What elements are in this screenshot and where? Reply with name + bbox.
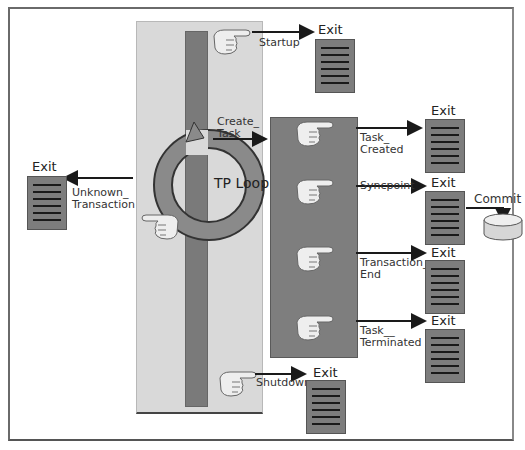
label-unknown-transaction: Unknown_ Transaction [72,187,135,211]
exit-title: Exit [318,22,343,37]
label-transaction-end: Transaction_ End [360,257,428,281]
hand-pointer-icon [297,122,333,146]
exit-title: Exit [431,245,456,260]
exit-document-icon [425,329,465,383]
exit-document-icon [315,39,355,93]
hand-pointer-icon [214,30,250,54]
label-task-terminated: Task__ Terminated [360,325,422,349]
exit-title: Exit [313,365,338,380]
hand-pointer-icon [297,180,333,204]
exit-document-icon [306,380,346,434]
exit-document-icon [425,191,465,245]
label-task-created: Task_ Created [360,132,404,156]
label-shutdown: Shutdown [256,377,311,389]
exit-title: Exit [32,159,57,174]
label-tp-loop: TP Loop [214,177,269,189]
label-create-task: Create_ Task [217,116,259,140]
hand-pointer-icon [297,316,333,340]
hand-pointer-icon [220,372,256,396]
label-startup: Startup [259,37,300,49]
label-syncpoint: Syncpoint [360,180,415,192]
exit-document-icon [425,119,465,173]
label-commit: Commit [474,193,521,205]
exit-document-icon [425,260,465,314]
exit-title: Exit [431,103,456,118]
exit-title: Exit [431,175,456,190]
exit-title: Exit [431,313,456,328]
exit-document-icon [27,176,67,230]
hand-pointer-icon [297,247,333,271]
